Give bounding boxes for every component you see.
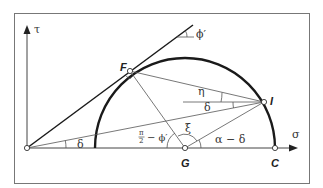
line-F-I	[130, 71, 264, 102]
sigma-axis-arrow-icon	[289, 145, 298, 152]
delta-at-origin-label: δ	[77, 138, 84, 151]
delta-at-I-angle-arc	[233, 102, 234, 108]
eta-angle-arc	[221, 93, 222, 103]
xi-angle-arc	[178, 134, 197, 141]
mohr-circle-diagram: τ σ ϕ′ η δ δ π 2 − ϕ′ ξ α − δ F I G C	[0, 0, 323, 188]
phi-angle-arc	[186, 31, 188, 37]
point-C	[272, 145, 277, 150]
pi-numerator: π	[139, 129, 144, 137]
phi-prime-label: ϕ′	[196, 28, 206, 41]
sigma-axis-label: σ	[292, 128, 300, 141]
label-C: C	[271, 157, 280, 169]
diagram-frame	[15, 14, 310, 184]
origin-point	[24, 145, 29, 150]
alpha-minus-delta-label: α − δ	[215, 133, 246, 146]
point-F	[127, 68, 132, 73]
eta-label: η	[198, 85, 205, 98]
label-F: F	[120, 61, 127, 73]
pi-over-2-minus-phi-angle-arc	[167, 133, 175, 148]
two-denominator: 2	[139, 137, 143, 145]
tau-axis-arrow-icon	[24, 25, 31, 34]
delta-at-origin-angle-arc	[65, 141, 66, 149]
label-I: I	[270, 95, 274, 107]
xi-label: ξ	[185, 122, 191, 135]
point-I	[261, 99, 266, 104]
minus-phi-label: − ϕ′	[147, 132, 168, 143]
tau-axis-label: τ	[34, 23, 40, 36]
point-G	[182, 145, 187, 150]
alpha-minus-delta-angle-arc	[199, 140, 201, 148]
delta-at-I-label: δ	[204, 101, 211, 114]
failure-envelope-line	[27, 25, 193, 148]
label-G: G	[181, 157, 190, 169]
